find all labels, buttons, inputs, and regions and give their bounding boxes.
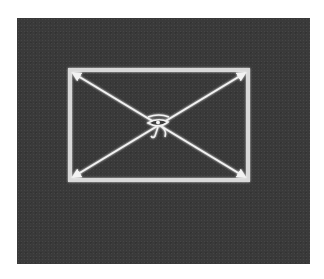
diagram [0,0,324,279]
diagonal-arrow-top-left [73,73,159,125]
diagonal-arrow-top-right [159,73,245,125]
diagonal-arrow-bottom-right [159,125,245,177]
diagonal-arrow-bottom-left [73,125,159,177]
